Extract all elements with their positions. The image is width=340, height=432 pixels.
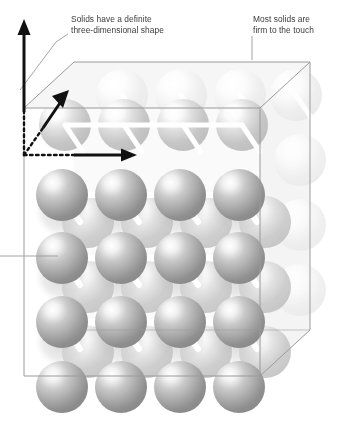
vertical-axis-arrowhead bbox=[18, 19, 31, 35]
annotation-firm-to-touch: Most solids are firm to the touch bbox=[253, 14, 314, 36]
annotation-definite-shape: Solids have a definite three-dimensional… bbox=[71, 14, 164, 36]
diagram-canvas: Solids have a definite three-dimensional… bbox=[0, 0, 340, 432]
lattice-illustration bbox=[0, 0, 340, 432]
